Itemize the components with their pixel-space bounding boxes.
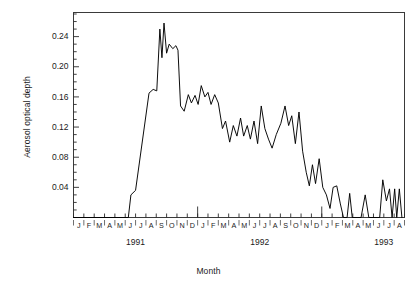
svg-text:J: J (129, 221, 133, 230)
svg-text:O: O (293, 221, 299, 230)
svg-text:0.08: 0.08 (52, 152, 69, 162)
svg-text:F: F (335, 221, 340, 230)
plot-frame (74, 13, 405, 218)
svg-text:J: J (387, 221, 391, 230)
svg-text:A: A (231, 221, 236, 230)
y-axis-title-text: Aerosol optical depth (22, 76, 32, 157)
y-axis-ticks (74, 14, 80, 217)
data-series-line (74, 23, 402, 217)
aerosol-optical-depth-figure: 0.040.080.120.160.200.24 JFMAMJJASONDJFM… (0, 0, 417, 285)
svg-text:N: N (304, 221, 309, 230)
svg-text:F: F (87, 221, 92, 230)
svg-text:D: D (314, 221, 319, 230)
svg-text:J: J (201, 221, 205, 230)
svg-text:O: O (169, 221, 175, 230)
svg-text:J: J (77, 221, 81, 230)
svg-text:J: J (325, 221, 329, 230)
svg-text:A: A (356, 221, 361, 230)
svg-text:D: D (190, 221, 195, 230)
svg-text:1991: 1991 (126, 237, 145, 247)
svg-text:0.24: 0.24 (52, 31, 69, 41)
svg-text:A: A (107, 221, 112, 230)
svg-text:M: M (117, 221, 123, 230)
svg-text:M: M (220, 221, 226, 230)
y-axis-tick-labels: 0.040.080.120.160.200.24 (52, 31, 69, 192)
svg-text:1992: 1992 (250, 237, 269, 247)
svg-text:J: J (263, 221, 267, 230)
x-axis-year-labels: 199119921993 (126, 207, 393, 247)
chart-canvas: 0.040.080.120.160.200.24 JFMAMJJASONDJFM… (0, 0, 417, 285)
svg-text:A: A (149, 221, 154, 230)
svg-text:0.20: 0.20 (52, 61, 69, 71)
svg-text:M: M (365, 221, 371, 230)
svg-text:S: S (283, 221, 288, 230)
svg-text:M: M (241, 221, 247, 230)
svg-text:0.04: 0.04 (52, 182, 69, 192)
y-axis-title: Aerosol optical depth (22, 42, 32, 192)
svg-text:S: S (159, 221, 164, 230)
svg-text:N: N (180, 221, 185, 230)
svg-text:J: J (253, 221, 257, 230)
svg-text:A: A (397, 221, 402, 230)
svg-text:0.12: 0.12 (52, 122, 69, 132)
x-axis-title-text: Month (196, 266, 220, 276)
svg-text:1993: 1993 (374, 237, 393, 247)
svg-text:J: J (139, 221, 143, 230)
x-axis-title: Month (0, 266, 417, 276)
svg-text:J: J (377, 221, 381, 230)
svg-text:0.16: 0.16 (52, 92, 69, 102)
svg-text:A: A (273, 221, 278, 230)
svg-text:F: F (211, 221, 216, 230)
svg-text:M: M (96, 221, 102, 230)
svg-text:M: M (345, 221, 351, 230)
